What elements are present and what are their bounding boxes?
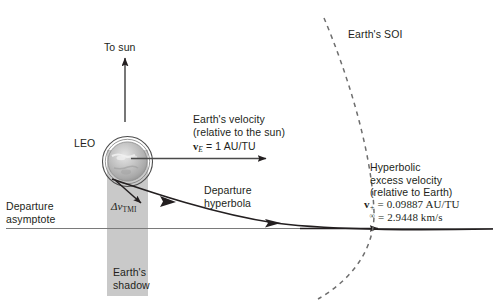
earths-shadow-line1: Earth's	[113, 266, 150, 279]
label-v-infinity-au: v∞+= 0.09887 AU/TU	[364, 198, 460, 211]
departure-hyperbola-line2: hyperbola	[204, 197, 252, 210]
label-leo: LEO	[74, 137, 95, 150]
delta-v-subscript-tmi: TMI	[123, 205, 137, 214]
label-hyperbolic-excess-velocity: Hyperbolic excess velocity (relative to …	[370, 161, 452, 199]
label-to-sun: To sun	[104, 41, 136, 54]
label-departure-asymptote: Departure asymptote	[6, 200, 55, 225]
label-v-infinity-kms: = 2.9448 km/s	[378, 211, 443, 224]
v-subscript-E: E	[198, 145, 203, 154]
label-delta-v-tmi: ΔvTMI	[111, 200, 137, 216]
earths-shadow-line2: shadow	[113, 279, 150, 292]
earth-globe-icon	[108, 142, 147, 181]
hyperbolic-excess-line1: Hyperbolic	[370, 161, 452, 174]
v-infinity-symbol: v	[364, 198, 370, 210]
earths-velocity-value: = 1 AU/TU	[206, 140, 256, 152]
label-earths-velocity: Earth's velocity (relative to the sun) v…	[193, 113, 285, 156]
earths-velocity-line2: (relative to the sun)	[193, 126, 285, 139]
hyperbolic-excess-line3: (relative to Earth)	[370, 186, 452, 199]
v-infinity-superscript: +	[370, 202, 374, 215]
hyperbolic-excess-line2: excess velocity	[370, 174, 452, 187]
departure-asymptote-line2: asymptote	[6, 213, 55, 226]
earths-velocity-line1: Earth's velocity	[193, 113, 285, 126]
departure-hyperbola-line1: Departure	[204, 184, 252, 197]
label-earths-soi: Earth's SOI	[348, 28, 402, 41]
earths-velocity-equation: vE = 1 AU/TU	[193, 140, 285, 156]
departure-hyperbola-diagram: To sun LEO Earth's velocity (relative to…	[0, 0, 495, 306]
departure-asymptote-line1: Departure	[6, 200, 55, 213]
label-departure-hyperbola: Departure hyperbola	[204, 184, 252, 209]
label-earths-shadow: Earth's shadow	[113, 266, 150, 291]
v-infinity-value-au: = 0.09887 AU/TU	[378, 198, 460, 210]
soi-boundary-arc	[318, 18, 374, 299]
delta-v-symbol: Δv	[111, 200, 123, 212]
